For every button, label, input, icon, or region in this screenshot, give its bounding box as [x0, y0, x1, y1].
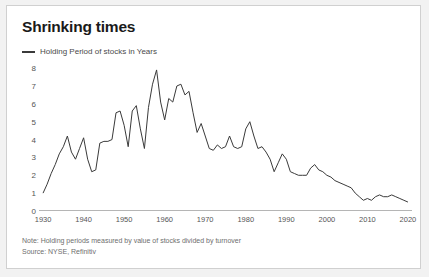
y-tick-label: 1: [32, 189, 36, 198]
y-tick-label: 3: [32, 153, 36, 162]
x-axis-labels: 1930194019501960197019801990200020102020: [22, 211, 412, 229]
chart-note: Note: Holding periods measured by value …: [22, 236, 241, 247]
x-tick-label: 1950: [116, 215, 133, 224]
line-chart-svg: [39, 61, 412, 211]
x-tick-label: 1970: [197, 215, 214, 224]
page-title: Shrinking times: [22, 18, 135, 36]
y-tick-label: 4: [32, 135, 36, 144]
x-tick-label: 2020: [400, 215, 417, 224]
chart-source: Source: NYSE, Refinitiv: [22, 247, 241, 258]
x-tick-label: 2000: [319, 215, 336, 224]
x-tick-label: 1930: [35, 215, 52, 224]
x-tick-label: 2010: [359, 215, 376, 224]
chart-footer: Note: Holding periods measured by value …: [22, 236, 241, 258]
x-tick-label: 1990: [278, 215, 295, 224]
y-tick-label: 7: [32, 82, 36, 91]
y-tick-label: 8: [32, 64, 36, 73]
plot-area: 012345678 193019401950196019701980199020…: [22, 61, 412, 229]
chart-legend: Holding Period of stocks in Years: [22, 47, 157, 56]
y-tick-label: 2: [32, 171, 36, 180]
legend-label: Holding Period of stocks in Years: [40, 47, 157, 56]
x-tick-label: 1980: [237, 215, 254, 224]
legend-line-icon: [22, 51, 35, 53]
chart-canvas: [39, 61, 412, 211]
x-tick-label: 1960: [156, 215, 173, 224]
y-axis-labels: 012345678: [22, 61, 36, 211]
y-tick-label: 5: [32, 117, 36, 126]
chart-card: Shrinking times Holding Period of stocks…: [6, 5, 421, 269]
y-tick-label: 6: [32, 99, 36, 108]
series-line-holding-period: [43, 70, 408, 202]
x-tick-label: 1940: [75, 215, 92, 224]
